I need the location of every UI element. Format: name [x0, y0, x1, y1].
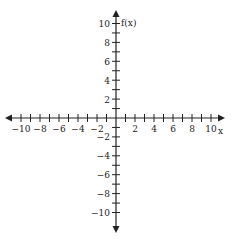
y-tick-label: 6: [104, 57, 110, 67]
y-tick-label: 8: [104, 38, 110, 48]
x-tick-label: −10: [12, 124, 31, 134]
y-tick-label: −8: [97, 189, 111, 199]
x-tick-label: 2: [132, 124, 138, 134]
x-tick-label: 4: [151, 124, 157, 134]
y-axis-label: f(x): [121, 18, 136, 28]
y-tick-label: 4: [104, 76, 110, 86]
y-axis-up-arrow-icon: [113, 10, 120, 17]
x-tick-label: −4: [71, 124, 85, 134]
y-tick-label: −6: [97, 170, 111, 180]
x-tick-label: −6: [52, 124, 66, 134]
coordinate-plane: x f(x) −10−8−6−4−2246810 108642−2−4−6−8−…: [0, 0, 232, 239]
x-tick-label: −8: [33, 124, 47, 134]
y-tick-label: 10: [99, 19, 111, 29]
x-axis-label: x: [218, 126, 223, 136]
x-axis-left-arrow-icon: [5, 115, 12, 122]
x-axis-right-arrow-icon: [218, 115, 225, 122]
x-tick-label: 8: [189, 124, 195, 134]
y-tick-label: −2: [97, 132, 110, 142]
y-tick-label: −10: [91, 208, 110, 218]
y-axis-down-arrow-icon: [113, 226, 120, 233]
y-tick-label: −4: [97, 151, 111, 161]
y-tick-label: 2: [104, 95, 110, 105]
x-axis-tick-labels: −10−8−6−4−2246810: [12, 124, 217, 134]
x-tick-label: 6: [170, 124, 176, 134]
x-tick-label: 10: [205, 124, 217, 134]
